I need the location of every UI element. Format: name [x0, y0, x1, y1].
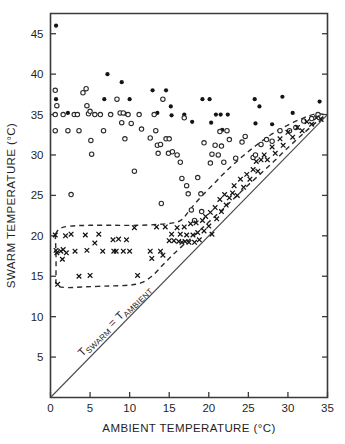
data-point-open: [53, 112, 57, 116]
upper-envelope: [55, 114, 324, 235]
data-point-open: [243, 134, 247, 138]
data-point-cross: [154, 225, 159, 230]
data-point-filled: [169, 113, 173, 117]
lower-envelope: [55, 115, 326, 288]
x-tick-label: 15: [163, 402, 176, 414]
data-point-open: [84, 86, 88, 90]
data-point-cross: [184, 233, 189, 238]
data-point-open: [222, 160, 226, 164]
data-point-cross: [175, 225, 180, 230]
data-point-cross: [214, 217, 219, 222]
data-point-cross: [158, 249, 163, 254]
reference-lines: [51, 115, 328, 398]
data-point-cross: [116, 237, 121, 242]
data-point-open: [175, 153, 179, 157]
data-point-filled: [128, 97, 132, 101]
data-point-filled: [270, 122, 274, 126]
data-point-filled: [150, 88, 154, 92]
data-point-cross: [241, 185, 246, 190]
data-point-filled: [54, 97, 58, 101]
data-point-filled: [219, 112, 223, 116]
data-point-cross: [259, 158, 264, 163]
data-point-open: [129, 121, 133, 125]
data-point-cross: [232, 183, 237, 188]
data-point-cross: [230, 191, 235, 196]
data-point-cross: [256, 169, 261, 174]
data-point-open: [180, 176, 184, 180]
data-point-open: [216, 153, 220, 157]
data-point-filled: [226, 112, 230, 116]
data-point-open: [77, 129, 81, 133]
data-point-cross: [203, 214, 208, 219]
data-point-filled: [164, 88, 168, 92]
data-point-open: [132, 169, 136, 173]
data-point-open: [120, 120, 124, 124]
data-point-filled: [253, 121, 257, 125]
data-point-open: [148, 136, 152, 140]
data-point-cross: [167, 238, 172, 243]
data-point-open: [121, 111, 125, 115]
data-point-open: [139, 127, 143, 131]
data-point-filled: [257, 104, 261, 108]
data-point-open: [240, 140, 244, 144]
data-point-cross: [262, 153, 267, 158]
data-point-open: [199, 192, 203, 196]
data-point-cross: [227, 196, 232, 201]
chart-annotations: TSWARM = TAMBIENT: [75, 283, 155, 361]
data-point-cross: [83, 233, 88, 238]
data-point-cross: [96, 232, 101, 237]
data-point-open: [184, 183, 188, 187]
data-point-cross: [88, 273, 93, 278]
data-point-open: [218, 129, 222, 133]
data-point-cross: [169, 232, 174, 237]
data-point-open: [81, 91, 85, 95]
data-point-cross: [178, 232, 183, 237]
envelope-curves: [55, 114, 326, 288]
data-point-open: [208, 161, 212, 165]
data-point-open: [213, 143, 217, 147]
data-point-cross: [111, 238, 116, 243]
data-point-cross: [300, 128, 305, 133]
data-point-open: [278, 129, 282, 133]
data-point-open: [123, 137, 127, 141]
plot-frame: [51, 14, 328, 398]
data-point-cross: [273, 151, 278, 156]
data-point-open: [61, 112, 65, 116]
x-tick-label: 25: [242, 402, 255, 414]
y-tick-label: 40: [31, 68, 44, 80]
data-point-open: [264, 137, 268, 141]
y-tick-label: 25: [31, 189, 44, 201]
data-point-open: [161, 97, 165, 101]
data-point-open: [126, 112, 130, 116]
data-point-open: [199, 209, 203, 213]
data-point-cross: [281, 143, 286, 148]
data-point-cross: [197, 238, 202, 243]
data-point-cross: [235, 193, 240, 198]
y-tick-label: 15: [31, 270, 44, 282]
data-point-open: [189, 208, 193, 212]
data-point-cross: [188, 221, 193, 226]
data-point-cross: [251, 167, 256, 172]
data-point-open: [98, 112, 102, 116]
data-point-open: [158, 142, 162, 146]
data-point-cross: [163, 225, 168, 230]
data-point-cross: [218, 197, 223, 202]
x-tick-label: 10: [123, 402, 136, 414]
data-point-filled: [317, 100, 321, 104]
data-point-open: [85, 103, 89, 107]
data-point-filled: [207, 97, 211, 101]
x-tick-label: 20: [202, 402, 215, 414]
series-cross-markers: [53, 115, 324, 286]
axis-frame: [51, 14, 328, 398]
identity-line: [51, 115, 328, 398]
data-point-open: [108, 112, 112, 116]
chart-figure: 0510152025303551015202530354045 TSWARM =…: [0, 0, 345, 444]
data-point-open: [219, 144, 223, 148]
data-point-cross: [182, 225, 187, 230]
y-tick-label: 30: [31, 149, 44, 161]
data-point-filled: [66, 111, 70, 115]
data-point-open: [210, 152, 214, 156]
data-point-cross: [121, 249, 126, 254]
data-point-cross: [64, 250, 69, 255]
data-point-cross: [85, 248, 90, 253]
